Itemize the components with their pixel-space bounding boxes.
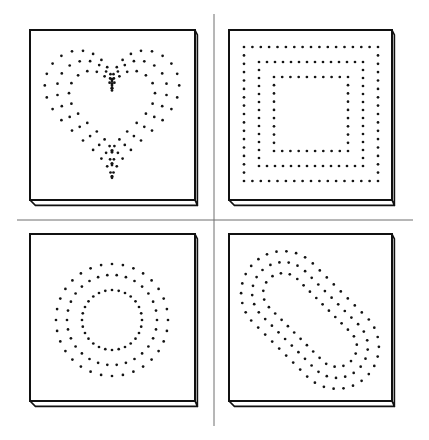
peg-hole-dot xyxy=(377,146,380,149)
peg-hole-dot xyxy=(301,46,304,49)
peg-hole-dot xyxy=(141,285,144,288)
peg-hole-dot xyxy=(251,180,254,183)
peg-hole-dot xyxy=(89,370,92,373)
peg-hole-dot xyxy=(298,61,301,64)
peg-hole-dot xyxy=(354,352,357,355)
peg-hole-dot xyxy=(376,336,379,339)
peg-hole-dot xyxy=(157,288,160,291)
peg-hole-dot xyxy=(109,158,112,161)
peg-hole-dot xyxy=(77,74,80,77)
peg-hole-dot xyxy=(362,93,365,96)
peg-hole-dot xyxy=(318,269,321,272)
peg-hole-dot xyxy=(88,358,91,361)
board-face xyxy=(229,30,392,200)
peg-hole-dot xyxy=(362,165,365,168)
peg-hole-dot xyxy=(126,70,129,73)
peg-hole-dot xyxy=(362,61,365,64)
peg-hole-dot xyxy=(323,385,326,388)
peg-hole-dot xyxy=(104,289,107,292)
peg-hole-dot xyxy=(338,150,341,153)
peg-hole-dot xyxy=(347,150,350,153)
peg-hole-dot xyxy=(373,326,376,329)
peg-hole-dot xyxy=(133,280,136,283)
peg-hole-dot xyxy=(155,328,158,331)
peg-hole-dot xyxy=(111,263,114,266)
peg-hole-dot xyxy=(310,46,313,49)
peg-hole-dot xyxy=(296,278,299,281)
peg-hole-dot xyxy=(330,61,333,64)
peg-hole-dot xyxy=(81,325,84,328)
peg-hole-dot xyxy=(343,46,346,49)
peg-hole-dot xyxy=(95,70,98,73)
peg-hole-dot xyxy=(68,92,71,95)
peg-hole-dot xyxy=(243,163,246,166)
peg-hole-dot xyxy=(324,290,327,293)
peg-hole-dot xyxy=(123,144,126,147)
peg-hole-dot xyxy=(273,76,276,79)
peg-hole-dot xyxy=(287,325,290,328)
peg-hole-dot xyxy=(71,129,74,132)
peg-hole-dot xyxy=(176,96,179,99)
peg-hole-dot xyxy=(143,125,146,128)
peg-hole-dot xyxy=(250,265,253,268)
peg-hole-dot xyxy=(243,180,246,183)
peg-hole-dot xyxy=(178,84,181,87)
peg-hole-dot xyxy=(43,84,46,87)
peg-hole-dot xyxy=(280,272,283,275)
peg-hole-dot xyxy=(354,165,357,168)
peg-hole-dot xyxy=(152,300,155,303)
peg-hole-dot xyxy=(151,129,154,132)
peg-hole-dot xyxy=(306,61,309,64)
peg-hole-dot xyxy=(140,139,143,142)
peg-hole-dot xyxy=(299,368,302,371)
peg-hole-dot xyxy=(377,171,380,174)
peg-hole-dot xyxy=(377,138,380,141)
peg-hole-dot xyxy=(118,75,121,78)
peg-hole-dot xyxy=(290,165,293,168)
peg-hole-dot xyxy=(86,70,89,73)
peg-hole-dot xyxy=(103,75,106,78)
peg-hole-dot xyxy=(138,332,141,335)
peg-hole-dot xyxy=(106,165,109,168)
peg-hole-dot xyxy=(161,119,164,122)
peg-hole-dot xyxy=(78,60,81,63)
peg-hole-dot xyxy=(352,180,355,183)
peg-hole-dot xyxy=(77,112,80,115)
peg-hole-dot xyxy=(357,323,360,326)
peg-hole-dot xyxy=(105,151,108,154)
peg-hole-dot xyxy=(288,273,291,276)
peg-hole-dot xyxy=(243,129,246,132)
peg-hole-dot xyxy=(56,308,59,311)
board-face xyxy=(30,30,195,200)
peg-hole-dot xyxy=(325,276,328,279)
peg-hole-dot xyxy=(295,252,298,255)
peg-hole-dot xyxy=(289,150,292,153)
peg-hole-dot xyxy=(64,288,67,291)
peg-hole-dot xyxy=(108,81,111,84)
peg-hole-dot xyxy=(135,122,138,125)
peg-hole-dot xyxy=(251,294,254,297)
peg-hole-dot xyxy=(347,76,350,79)
peg-hole-dot xyxy=(330,296,333,299)
board-face xyxy=(229,234,392,401)
peg-hole-dot xyxy=(100,59,103,62)
panel-circle-pattern-board xyxy=(30,234,197,406)
peg-hole-dot xyxy=(326,180,329,183)
peg-hole-dot xyxy=(140,312,143,315)
peg-hole-dot xyxy=(243,146,246,149)
peg-hole-dot xyxy=(45,96,48,99)
peg-hole-dot xyxy=(347,100,350,103)
peg-hole-dot xyxy=(264,318,267,321)
peg-hole-dot xyxy=(266,165,269,168)
peg-hole-dot xyxy=(103,138,106,141)
peg-hole-dot xyxy=(306,150,309,153)
peg-hole-dot xyxy=(274,165,277,168)
peg-hole-dot xyxy=(151,102,154,105)
peg-hole-dot xyxy=(84,332,87,335)
peg-hole-dot xyxy=(360,180,363,183)
peg-hole-dot xyxy=(66,319,69,322)
peg-hole-dot xyxy=(67,328,70,331)
peg-hole-dot xyxy=(290,344,293,347)
peg-hole-dot xyxy=(82,49,85,52)
peg-hole-dot xyxy=(176,72,179,75)
